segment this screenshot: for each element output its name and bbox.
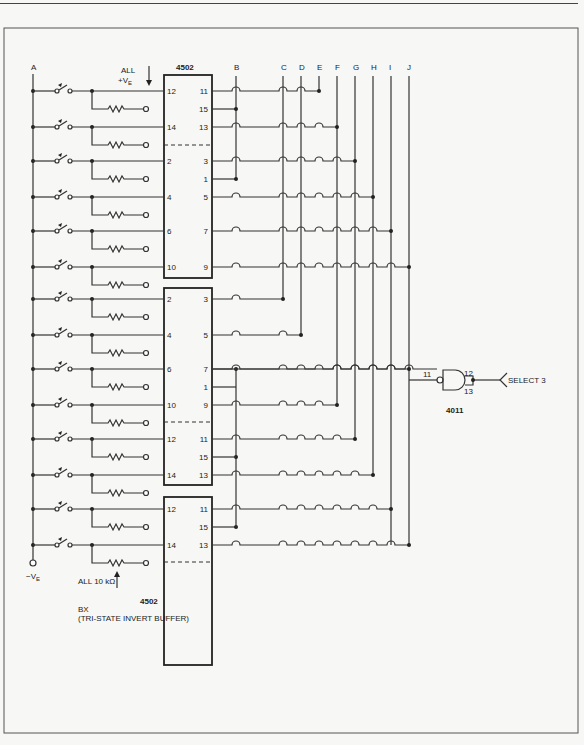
svg-text:4: 4 (167, 331, 172, 340)
neg-ve-terminal (30, 560, 36, 566)
svg-text:10: 10 (167, 401, 176, 410)
svg-text:11: 11 (200, 87, 209, 96)
svg-text:9: 9 (204, 263, 209, 272)
chip-1-part: 4502 (176, 63, 194, 72)
bx-description: (TRI-STATE INVERT BUFFER) (78, 614, 189, 623)
svg-text:1: 1 (204, 383, 209, 392)
svg-text:14: 14 (167, 541, 176, 550)
bus-a-label: A (31, 63, 37, 72)
gate-part: 4011 (446, 406, 464, 415)
all-10k-label: ALL 10 kΩ (78, 577, 115, 586)
svg-text:2: 2 (167, 295, 172, 304)
svg-text:5: 5 (204, 331, 209, 340)
svg-text:H: H (371, 63, 377, 72)
input-switch-rows (31, 83, 164, 566)
svg-text:10: 10 (167, 263, 176, 272)
all-ve-label-1: ALL (121, 66, 136, 75)
svg-text:3: 3 (204, 157, 209, 166)
svg-text:6: 6 (167, 365, 172, 374)
svg-text:2: 2 (167, 157, 172, 166)
svg-text:13: 13 (199, 123, 208, 132)
select-label: SELECT 3 (508, 376, 546, 385)
svg-text:15: 15 (199, 453, 208, 462)
svg-text:11: 11 (200, 505, 209, 514)
all-10k-arrow-head (114, 571, 120, 577)
nand-gate-4011: 11 12 13 4011 SELECT 3 (409, 369, 546, 415)
svg-text:C: C (281, 63, 287, 72)
svg-text:1: 1 (204, 175, 209, 184)
svg-text:6: 6 (167, 227, 172, 236)
chip-pin-labels: 1214246101115133157924610121435719111513… (167, 87, 209, 550)
svg-text:14: 14 (167, 471, 176, 480)
svg-text:7: 7 (204, 227, 209, 236)
svg-text:E: E (317, 63, 322, 72)
svg-text:12: 12 (167, 435, 176, 444)
svg-text:14: 14 (167, 123, 176, 132)
column-bus-lines: BCDEFGHIJ (212, 63, 437, 547)
gate-pin-in2: 13 (464, 387, 473, 396)
svg-text:15: 15 (199, 105, 208, 114)
svg-text:5: 5 (204, 193, 209, 202)
neg-ve-label: −VE (26, 572, 40, 582)
svg-text:12: 12 (167, 505, 176, 514)
bx-label: BX (78, 605, 89, 614)
svg-text:D: D (299, 63, 305, 72)
svg-text:9: 9 (204, 401, 209, 410)
svg-text:11: 11 (200, 435, 209, 444)
svg-text:15: 15 (199, 523, 208, 532)
svg-text:3: 3 (204, 295, 209, 304)
svg-text:13: 13 (199, 541, 208, 550)
svg-text:I: I (389, 63, 391, 72)
all-ve-label-2: +VE (118, 76, 132, 86)
all-ve-arrow-head (146, 80, 152, 86)
svg-text:B: B (234, 63, 239, 72)
chip-3-part: 4502 (140, 597, 158, 606)
svg-text:13: 13 (199, 471, 208, 480)
svg-text:G: G (353, 63, 359, 72)
gate-pin-out: 11 (423, 370, 432, 379)
svg-text:7: 7 (204, 365, 209, 374)
svg-text:F: F (335, 63, 340, 72)
svg-text:J: J (407, 63, 411, 72)
svg-text:12: 12 (167, 87, 176, 96)
svg-text:4: 4 (167, 193, 172, 202)
circuit-diagram: A −VE ALL +VE 4502 4502 BX (TRI-STATE IN… (0, 0, 584, 745)
gate-pin-in1: 12 (464, 369, 473, 378)
